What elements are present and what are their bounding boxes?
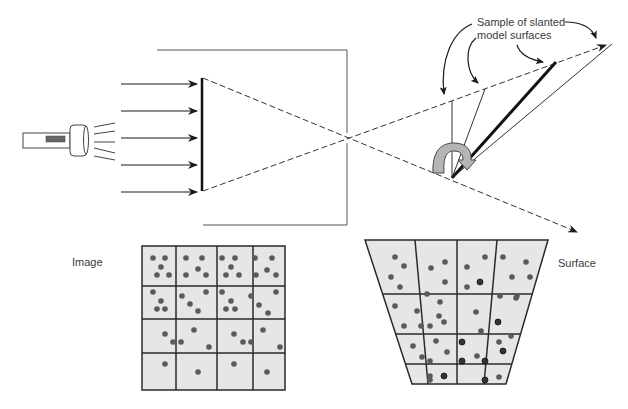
sample-dot — [195, 308, 201, 314]
sample-dot — [509, 274, 515, 280]
sample-dot — [223, 272, 229, 278]
sample-dot — [474, 353, 480, 359]
sample-dot — [496, 374, 502, 380]
sample-dot-dark — [459, 358, 465, 364]
sample-dot — [513, 295, 519, 301]
sample-dot — [273, 272, 279, 278]
surface-grid — [365, 240, 548, 384]
sample-dot — [401, 263, 407, 269]
flashlight-icon — [23, 123, 115, 160]
slanted-surfaces — [452, 44, 612, 178]
sample-dot — [260, 327, 266, 333]
image-label: Image — [72, 256, 103, 268]
sample-dot — [444, 349, 450, 355]
sample-dot — [162, 255, 168, 261]
sample-dot — [178, 339, 184, 345]
sample-dot — [414, 308, 420, 314]
sample-dot — [203, 272, 209, 278]
sample-dot — [150, 289, 156, 295]
sample-dot — [427, 377, 433, 383]
sample-dot — [228, 298, 234, 304]
sample-dot — [240, 339, 246, 345]
sample-dot — [388, 274, 394, 280]
sample-dot — [437, 299, 443, 305]
sample-dot — [179, 293, 185, 299]
sample-dot — [162, 331, 168, 337]
sample-dot — [269, 255, 275, 261]
sample-dot — [392, 303, 398, 309]
sample-dot — [183, 255, 189, 261]
sample-dot — [195, 369, 201, 375]
sample-dot — [187, 301, 193, 307]
sample-dot — [264, 267, 270, 273]
sample-dot — [162, 361, 168, 367]
sample-dot — [183, 272, 189, 278]
sample-dot — [500, 254, 506, 260]
sample-dot — [150, 255, 156, 261]
sample-dot — [264, 369, 270, 375]
sample-dot — [248, 293, 254, 299]
sample-dot — [428, 265, 434, 271]
sample-dot — [158, 264, 164, 270]
image-grid — [142, 246, 285, 390]
sample-dot-dark — [441, 373, 447, 379]
sample-dot — [231, 361, 237, 367]
sample-dot — [442, 279, 448, 285]
sample-dot — [228, 264, 234, 270]
sample-dot — [523, 259, 529, 265]
sample-dot — [253, 272, 259, 278]
sample-dot — [397, 284, 403, 290]
sample-dot — [464, 284, 470, 290]
sample-dot-dark — [500, 348, 506, 354]
sample-dot — [473, 309, 479, 315]
sample-dot — [162, 306, 168, 312]
sample-dot — [464, 264, 470, 270]
sample-dot — [166, 272, 172, 278]
sample-dot — [497, 293, 503, 299]
surface-label: Surface — [558, 257, 596, 269]
sample-dot — [508, 333, 514, 339]
sample-dot-dark — [495, 319, 501, 325]
sample-dot — [203, 289, 209, 295]
sample-dot-dark — [482, 377, 488, 383]
sample-dot — [158, 298, 164, 304]
sample-dot — [436, 313, 442, 319]
sample-dot — [199, 255, 205, 261]
sample-dot — [433, 338, 439, 344]
surface-slant-4 — [452, 44, 612, 178]
sample-dot — [154, 306, 160, 312]
sample-dot — [410, 343, 416, 349]
sample-dot — [441, 319, 447, 325]
sample-dot — [265, 310, 271, 316]
sample-dot — [231, 331, 237, 337]
sample-dot — [427, 358, 433, 364]
incident-rays — [121, 84, 197, 192]
sample-dot — [418, 323, 424, 329]
annotation-text-line1: Sample of slanted — [477, 16, 565, 28]
annotation-text-line2: model surfaces — [477, 29, 552, 41]
sample-dot-dark — [459, 339, 465, 345]
sample-dot — [478, 328, 484, 334]
sample-dot — [195, 266, 201, 272]
sample-dot — [236, 272, 242, 278]
sample-dot — [223, 306, 229, 312]
sample-dot — [424, 291, 430, 297]
sample-dot — [252, 255, 258, 261]
sample-dot — [219, 255, 225, 261]
sample-dot — [248, 339, 254, 345]
pinhole-camera-diagram: Sample of slanted model surfaces Image S… — [0, 0, 628, 409]
flashlight-switch — [46, 136, 65, 142]
sample-dot-dark — [482, 358, 488, 364]
sample-dot — [427, 323, 433, 329]
sample-dot — [232, 255, 238, 261]
sample-dot — [496, 339, 502, 345]
sample-dot — [256, 302, 262, 308]
sample-dot-dark — [477, 279, 483, 285]
sample-dot — [401, 323, 407, 329]
rotate-arrow-icon — [433, 143, 476, 173]
sample-dot — [277, 344, 283, 350]
sample-dot — [232, 306, 238, 312]
sample-dot — [419, 354, 425, 360]
sample-dot — [392, 254, 398, 260]
sample-dot — [527, 274, 533, 280]
